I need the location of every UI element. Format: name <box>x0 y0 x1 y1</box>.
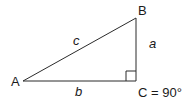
side-label-a: a <box>149 36 156 51</box>
side-c-line <box>23 18 136 81</box>
right-triangle-diagram: A B C = 90° a b c <box>0 0 189 101</box>
side-label-c: c <box>73 33 80 48</box>
right-angle-marker <box>126 71 136 81</box>
vertex-label-c: C = 90° <box>138 85 182 100</box>
vertex-label-a: A <box>11 74 20 89</box>
side-label-b: b <box>75 84 82 99</box>
vertex-label-b: B <box>138 3 147 18</box>
